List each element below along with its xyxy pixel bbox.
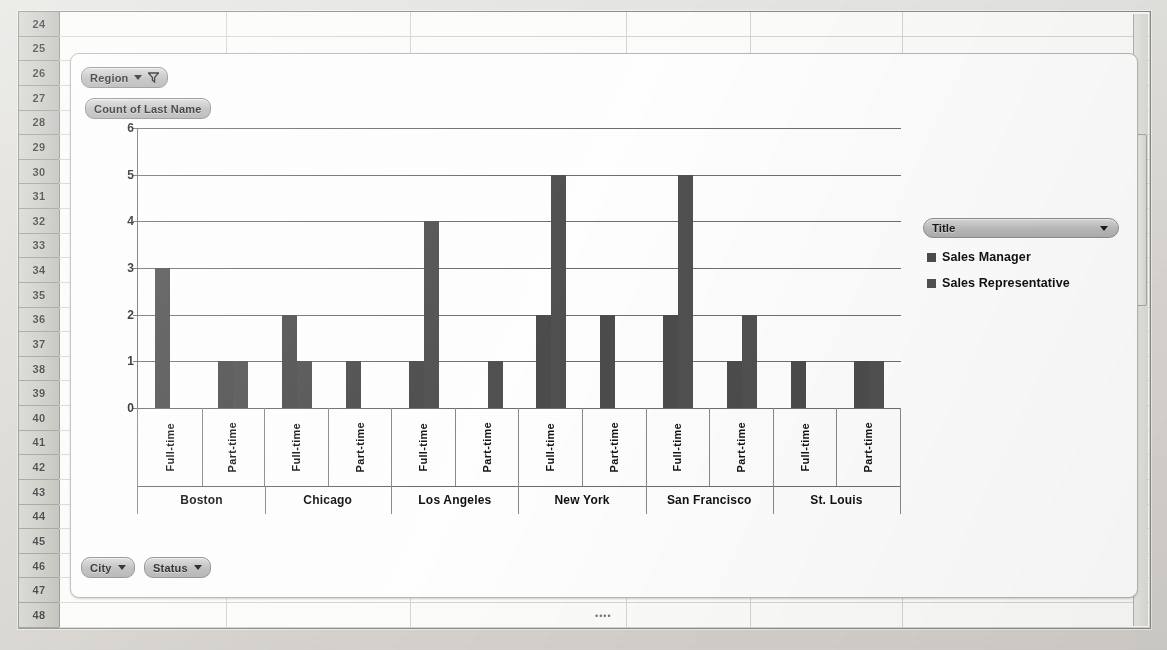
legend-color-swatch <box>927 279 936 288</box>
pivot-filter-button-region[interactable]: Region <box>81 67 168 88</box>
row-header[interactable]: 42 <box>19 455 59 480</box>
row-header[interactable]: 46 <box>19 554 59 579</box>
x-axis-subcategory-label: Part-time <box>455 408 520 486</box>
bar-group[interactable] <box>583 128 647 408</box>
x-axis-subcategory-text: Part-time <box>354 422 366 472</box>
row-header[interactable]: 24 <box>19 12 59 37</box>
y-axis-tick-label: 6 <box>127 121 134 135</box>
bar-group[interactable] <box>202 128 266 408</box>
x-axis-subcategory-label: Part-time <box>582 408 647 486</box>
bar[interactable] <box>854 361 869 408</box>
row-header[interactable]: 35 <box>19 283 59 308</box>
bar[interactable] <box>791 361 806 408</box>
spreadsheet-cell[interactable] <box>627 12 751 36</box>
spreadsheet-cell[interactable] <box>627 603 751 627</box>
bar[interactable] <box>297 361 312 408</box>
row-header[interactable]: 47 <box>19 578 59 603</box>
x-axis-group-label: Boston <box>137 486 266 514</box>
bar[interactable] <box>536 315 551 408</box>
bar[interactable] <box>869 361 884 408</box>
x-axis-subcategory-label: Full-time <box>773 408 838 486</box>
row-header[interactable]: 45 <box>19 529 59 554</box>
pivot-axis-button-city[interactable]: City <box>81 557 135 578</box>
spreadsheet-row[interactable] <box>59 12 1150 37</box>
y-axis-tick-label: 0 <box>127 401 134 415</box>
row-header[interactable]: 41 <box>19 431 59 456</box>
bar[interactable] <box>663 315 678 408</box>
bar-group[interactable] <box>329 128 393 408</box>
row-header[interactable]: 32 <box>19 209 59 234</box>
x-axis-subcategory-text: Part-time <box>608 422 620 472</box>
bar-group[interactable] <box>520 128 584 408</box>
pivot-value-field-button[interactable]: Count of Last Name <box>85 98 211 119</box>
bar-group[interactable] <box>392 128 456 408</box>
x-axis-subcategory-text: Part-time <box>226 422 238 472</box>
bar-group[interactable] <box>456 128 520 408</box>
row-header[interactable]: 43 <box>19 480 59 505</box>
legend-item[interactable]: Sales Manager <box>923 250 1123 264</box>
row-header[interactable]: 27 <box>19 86 59 111</box>
legend-item[interactable]: Sales Representative <box>923 276 1123 290</box>
row-header[interactable]: 39 <box>19 381 59 406</box>
bar[interactable] <box>218 361 233 408</box>
row-header[interactable]: 40 <box>19 406 59 431</box>
row-header[interactable]: 38 <box>19 357 59 382</box>
bar[interactable] <box>551 175 566 408</box>
x-axis-subcategory-band: Full-timePart-timeFull-timePart-timeFull… <box>137 408 900 487</box>
bar[interactable] <box>282 315 297 408</box>
row-header[interactable]: 26 <box>19 61 59 86</box>
row-header[interactable]: 29 <box>19 135 59 160</box>
x-axis-subcategory-text: Full-time <box>671 423 683 472</box>
bar-group[interactable] <box>138 128 202 408</box>
spreadsheet-cell[interactable] <box>227 603 411 627</box>
spreadsheet-cell[interactable] <box>411 12 627 36</box>
row-header[interactable]: 30 <box>19 160 59 185</box>
pivot-axis-button-status[interactable]: Status <box>144 557 211 578</box>
x-axis-subcategory-label: Part-time <box>709 408 774 486</box>
bar-group[interactable] <box>837 128 901 408</box>
row-header[interactable]: 36 <box>19 308 59 333</box>
bar-group[interactable] <box>647 128 711 408</box>
row-header[interactable]: 25 <box>19 37 59 62</box>
x-axis-subcategory-text: Part-time <box>481 422 493 472</box>
x-axis-group-label: St. Louis <box>773 486 901 514</box>
spreadsheet-cell[interactable] <box>903 603 1150 627</box>
bar-group[interactable] <box>774 128 838 408</box>
pivot-axis-button-city-label: City <box>90 562 112 574</box>
spreadsheet-cell[interactable] <box>227 12 411 36</box>
plot-area: 0123456 <box>137 128 901 409</box>
bar[interactable] <box>155 268 170 408</box>
legend-color-swatch <box>927 253 936 262</box>
legend-field-button-title[interactable]: Title <box>923 218 1119 238</box>
bar[interactable] <box>727 361 742 408</box>
y-axis-tick-label: 4 <box>127 214 134 228</box>
row-header[interactable]: 33 <box>19 234 59 259</box>
x-axis-subcategory-label: Part-time <box>328 408 393 486</box>
bar[interactable] <box>424 221 439 408</box>
x-axis-subcategory-text: Full-time <box>417 423 429 472</box>
bar[interactable] <box>742 315 757 408</box>
row-header[interactable]: 34 <box>19 258 59 283</box>
spreadsheet-cell[interactable] <box>751 603 903 627</box>
bar-group[interactable] <box>265 128 329 408</box>
row-header[interactable]: 31 <box>19 184 59 209</box>
bar[interactable] <box>678 175 693 408</box>
bar[interactable] <box>600 315 615 408</box>
row-header[interactable]: 28 <box>19 111 59 136</box>
x-axis-group-label: Chicago <box>264 486 392 514</box>
row-header[interactable]: 44 <box>19 505 59 530</box>
x-axis-subcategory-label: Full-time <box>519 408 584 486</box>
chevron-down-icon <box>1100 226 1108 231</box>
bar-group[interactable] <box>710 128 774 408</box>
bar[interactable] <box>346 361 361 408</box>
row-header[interactable]: 48 <box>19 603 59 628</box>
bar[interactable] <box>233 361 248 408</box>
bar[interactable] <box>409 361 424 408</box>
pivot-chart[interactable]: Region Count of Last Name City Status 01… <box>70 53 1138 598</box>
spreadsheet-cell[interactable] <box>59 12 227 36</box>
spreadsheet-cell[interactable] <box>59 603 227 627</box>
spreadsheet-cell[interactable] <box>751 12 903 36</box>
spreadsheet-cell[interactable] <box>903 12 1150 36</box>
bar[interactable] <box>488 361 503 408</box>
row-header[interactable]: 37 <box>19 332 59 357</box>
